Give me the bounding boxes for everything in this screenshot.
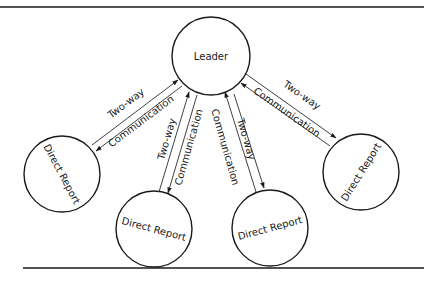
node-direct-report-3: Direct Report: [232, 190, 308, 266]
edge-label: Communication: [252, 85, 323, 139]
edge-label: Two-way: [235, 116, 258, 161]
node-direct-report-1: Direct Report: [24, 136, 100, 212]
edge-leader-dr4: Two-way Communication: [241, 74, 336, 146]
node-label: Leader: [194, 51, 229, 62]
node-leader: Leader: [172, 17, 250, 95]
node-direct-report-4: Direct Report: [323, 134, 399, 210]
edge-leader-dr3: Communication Two-way: [209, 92, 264, 192]
communication-diagram: Two-way Communication Two-way Communicat…: [0, 0, 424, 286]
node-direct-report-2: Direct Report: [116, 191, 192, 267]
edge-label: Communication: [172, 108, 204, 187]
